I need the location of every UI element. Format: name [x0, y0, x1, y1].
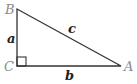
side-label-c: c: [68, 21, 76, 36]
triangle-diagram: B C A a b c: [0, 0, 137, 84]
vertex-label-b: B: [4, 2, 15, 17]
triangle: [17, 9, 121, 66]
vertex-label-c: C: [4, 59, 14, 74]
side-label-a: a: [7, 31, 15, 46]
right-angle-marker: [17, 57, 26, 66]
vertex-label-a: A: [123, 59, 133, 74]
side-label-b: b: [65, 68, 74, 83]
